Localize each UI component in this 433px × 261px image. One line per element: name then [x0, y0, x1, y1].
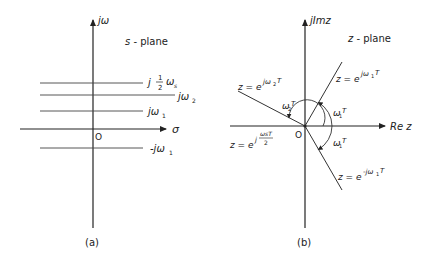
svg-text:s: s	[174, 82, 177, 89]
label-ray-w2: z = e jω 2 T	[237, 77, 282, 92]
z-plane-diagram: jImz z - plane Re z O z = e jω 1 T z = e…	[229, 15, 412, 248]
imz-axis-label: jImz	[308, 15, 331, 26]
s-plane-label: s - plane	[125, 36, 168, 47]
svg-text:2: 2	[192, 97, 196, 104]
svg-text:2: 2	[264, 139, 268, 146]
svg-text:2: 2	[158, 84, 162, 92]
svg-text:z = e: z = e	[237, 82, 262, 92]
sigma-axis-label: σ	[172, 123, 180, 136]
arc-neg-w1	[319, 126, 333, 149]
svg-text:jω: jω	[146, 106, 159, 117]
angle-label-w1-lower: ω 1 T	[333, 137, 347, 149]
origin-label-z: O	[295, 130, 302, 140]
svg-text:-jω: -jω	[150, 143, 165, 154]
svg-text:j: j	[146, 77, 151, 88]
ray-neg-w1	[305, 126, 342, 190]
figure-canvas: jω s - plane σ O j 1 2 ω s jω 2 jω 1 -jω…	[0, 0, 433, 261]
svg-text:2: 2	[273, 81, 276, 87]
svg-text:T: T	[277, 77, 282, 85]
svg-text:z = e: z = e	[229, 140, 254, 150]
label-nyquist: z = e j ωsT 2	[229, 130, 273, 150]
ray-w2	[238, 91, 305, 126]
svg-text:jω: jω	[360, 70, 369, 78]
svg-text:1: 1	[158, 74, 162, 82]
label-w2: jω 2	[176, 91, 196, 104]
rez-axis-label: Re z	[390, 121, 412, 132]
svg-text:T: T	[342, 107, 347, 115]
svg-text:1: 1	[169, 149, 173, 156]
svg-text:jω: jω	[262, 78, 271, 86]
svg-text:1: 1	[162, 112, 166, 119]
svg-text:z = e: z = e	[335, 74, 360, 84]
svg-text:1: 1	[376, 171, 379, 177]
caption-b: (b)	[297, 237, 311, 248]
svg-text:jω: jω	[176, 91, 189, 102]
svg-text:T: T	[342, 137, 347, 145]
svg-text:1: 1	[371, 73, 374, 79]
z-plane-label: z - plane	[347, 33, 391, 44]
svg-text:T: T	[291, 100, 296, 108]
jw-axis-label: jω	[96, 15, 109, 26]
svg-text:ωsT: ωsT	[260, 130, 273, 137]
svg-text:z = e: z = e	[337, 172, 362, 182]
svg-text:j: j	[254, 136, 257, 144]
svg-text:-jω: -jω	[363, 168, 373, 176]
svg-text:T: T	[380, 167, 385, 175]
label-w1: jω 1	[146, 106, 166, 119]
label-ray-w1: z = e jω 1 T	[335, 69, 380, 84]
label-neg-w1: -jω 1	[150, 143, 173, 156]
label-half-ws: j 1 2 ω s	[146, 74, 177, 92]
angle-label-w1-upper: ω 1 T	[333, 107, 347, 119]
svg-text:T: T	[375, 69, 380, 77]
angle-label-w2: ω 2 T	[282, 100, 296, 112]
origin-label-s: O	[95, 132, 102, 142]
s-plane-diagram: jω s - plane σ O j 1 2 ω s jω 2 jω 1 -jω…	[20, 15, 196, 248]
caption-a: (a)	[85, 237, 99, 248]
label-ray-neg-w1: z = e -jω 1 T	[337, 167, 385, 182]
origin-dot	[303, 124, 306, 127]
